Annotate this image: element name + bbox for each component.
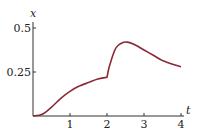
chart: 1234 0.250.5 t x: [0, 0, 197, 132]
x-tick-label: 1: [67, 118, 74, 131]
y-ticks: 0.250.5: [7, 22, 37, 79]
data-line: [33, 42, 181, 116]
y-axis-label: x: [30, 7, 37, 20]
y-tick-label: 0.25: [7, 66, 32, 79]
x-axis-label: t: [186, 104, 191, 117]
y-tick-label: 0.5: [14, 22, 32, 35]
x-tick-label: 2: [104, 118, 111, 131]
x-tick-label: 3: [141, 118, 148, 131]
x-tick-label: 4: [178, 118, 185, 131]
